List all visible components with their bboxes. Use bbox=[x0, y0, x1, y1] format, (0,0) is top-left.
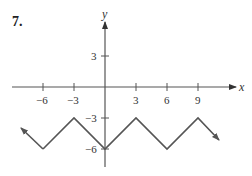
x-tick-label: −3 bbox=[67, 94, 79, 106]
problem-number: 7. bbox=[12, 14, 23, 29]
x-tick-label: −6 bbox=[36, 94, 48, 106]
x-axis-label: x bbox=[238, 80, 245, 94]
graph: 7. x y −6 −3 3 6 9 3 −3 −6 bbox=[0, 0, 252, 176]
y-tick-label: −3 bbox=[85, 112, 97, 124]
x-tick-label: 6 bbox=[164, 94, 170, 106]
y-tick-label: −6 bbox=[85, 143, 97, 155]
zigzag-curve-left-end bbox=[21, 128, 43, 149]
x-tick-label: 3 bbox=[133, 94, 139, 106]
y-tick-label: 3 bbox=[91, 50, 97, 62]
x-tick-label: 9 bbox=[195, 94, 201, 106]
zigzag-curve bbox=[43, 118, 219, 149]
y-axis-label: y bbox=[101, 7, 108, 21]
